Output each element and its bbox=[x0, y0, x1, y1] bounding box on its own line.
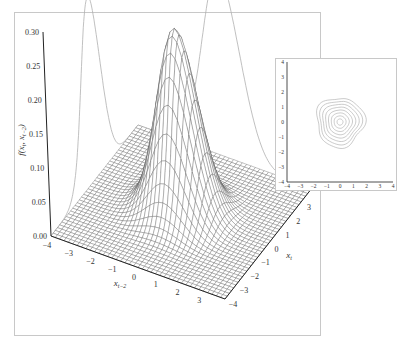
x-tick-label: −3 bbox=[65, 249, 74, 258]
inset-y-tick-label: 4 bbox=[281, 59, 284, 65]
x-tick-label: −4 bbox=[43, 241, 52, 250]
x-tick-label: −2 bbox=[86, 257, 95, 266]
inset-x-tick-label: −3 bbox=[297, 183, 303, 189]
inset-y-tick-label: 2 bbox=[281, 89, 284, 95]
inset-x-tick-label: −1 bbox=[324, 183, 330, 189]
inset-x-tick-label: −4 bbox=[284, 183, 290, 189]
inset-x-tick-label: −2 bbox=[311, 183, 317, 189]
inset-x-ticks: −4−3−2−101234 bbox=[284, 183, 395, 189]
inset-x-tick-label: 2 bbox=[365, 183, 368, 189]
figure-svg: 0.000.050.100.150.200.250.30 −4−3−2−1012… bbox=[0, 0, 408, 346]
inset-x-tick-label: 3 bbox=[378, 183, 381, 189]
inset-y-tick-label: −1 bbox=[278, 134, 284, 140]
z-tick-label: 0.30 bbox=[25, 28, 39, 37]
inset-frame bbox=[276, 59, 397, 191]
y-tick-label: 2 bbox=[296, 217, 300, 226]
x-tick-label: 1 bbox=[154, 280, 158, 289]
z-tick-label: 0.25 bbox=[26, 62, 40, 71]
inset-x-tick-label: 4 bbox=[392, 183, 395, 189]
inset-y-tick-label: 3 bbox=[281, 74, 284, 80]
y-tick-label: 3 bbox=[307, 203, 311, 212]
figure: 0.000.050.100.150.200.250.30 −4−3−2−1012… bbox=[0, 0, 408, 346]
inset-x-tick-label: 1 bbox=[352, 183, 355, 189]
x-tick-label: −1 bbox=[108, 265, 117, 274]
x-tick-label: 0 bbox=[132, 273, 136, 282]
z-tick-label: 0.15 bbox=[29, 130, 43, 139]
y-tick-label: −4 bbox=[229, 300, 238, 309]
y-tick-label: 0 bbox=[275, 245, 279, 254]
z-tick-label: 0.20 bbox=[28, 96, 42, 105]
y-tick-label: −3 bbox=[240, 286, 249, 295]
contour-inset: −4−3−2−101234 43210−1−2−3−4 bbox=[276, 59, 397, 191]
inset-y-tick-label: −3 bbox=[278, 164, 284, 170]
inset-y-tick-label: 0 bbox=[281, 119, 284, 125]
y-tick-label: −1 bbox=[261, 258, 270, 267]
y-tick-label: 1 bbox=[285, 231, 289, 240]
z-tick-label: 0.05 bbox=[32, 198, 46, 207]
x-tick-label: 3 bbox=[197, 296, 201, 305]
y-tick-label: −2 bbox=[251, 272, 260, 281]
inset-y-tick-label: 1 bbox=[281, 104, 284, 110]
inset-y-tick-label: −2 bbox=[278, 149, 284, 155]
z-tick-label: 0.00 bbox=[33, 232, 47, 241]
inset-y-tick-label: −4 bbox=[278, 179, 284, 185]
x-tick-label: 2 bbox=[176, 288, 180, 297]
inset-x-tick-label: 0 bbox=[339, 183, 342, 189]
z-tick-label: 0.10 bbox=[30, 164, 44, 173]
